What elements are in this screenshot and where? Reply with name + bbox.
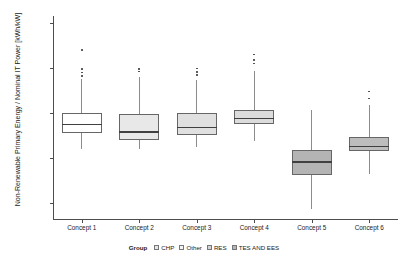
boxplot-median-line [177,127,217,128]
legend-label: TES AND EES [239,244,280,251]
legend-label: RES [214,244,227,251]
boxplot-median-line [349,146,389,147]
boxplot-median-line [234,118,274,119]
plot-panel [53,16,398,219]
boxplot-outlier-point [196,68,198,70]
y-axis-title: Non-Renewable Primary Energy / Nominal I… [10,7,26,212]
x-tick-mark [312,220,313,223]
boxplot-outlier-point [368,91,370,93]
x-tick-mark [82,220,83,223]
legend-label: Other [186,244,201,251]
boxplot-median-line [119,131,159,132]
y-tick-mark [50,158,53,159]
x-tick-label: Concept 6 [334,224,404,231]
boxplot-whisker [254,71,255,141]
legend-swatch-icon [207,245,212,250]
boxplot-iqr-box [177,113,217,135]
y-tick-mark [50,113,53,114]
x-tick-mark [254,220,255,223]
x-tick-mark [139,220,140,223]
boxplot-outlier-point [138,68,140,70]
legend-item[interactable]: Other [179,244,201,251]
boxplot-outlier-point [253,59,255,61]
legend-label: CHP [161,244,174,251]
boxplot-outlier-point [81,49,83,51]
legend-swatch-icon [154,245,159,250]
legend: Group CHPOtherRESTES AND EES [0,240,408,254]
boxplot-outlier-point [196,74,198,76]
boxplot-outlier-point [81,72,83,74]
boxplot-outlier-point [196,71,198,73]
boxplot-median-line [292,161,332,162]
boxplot-iqr-box [119,114,159,139]
legend-swatch-icon [232,245,237,250]
boxplot-outlier-point [81,68,83,70]
legend-item[interactable]: TES AND EES [232,244,280,251]
boxplot-median-line [62,124,102,125]
y-tick-mark [50,68,53,69]
x-tick-mark [369,220,370,223]
legend-item[interactable]: RES [207,244,227,251]
x-tick-mark [197,220,198,223]
boxplot-outlier-point [253,63,255,65]
x-axis-line [53,219,398,220]
boxplot-chart: Non-Renewable Primary Energy / Nominal I… [0,0,408,260]
y-axis-line [53,16,54,219]
legend-title: Group [129,244,148,251]
y-tick-mark [50,23,53,24]
y-tick-mark [50,203,53,204]
boxplot-iqr-box [349,137,389,151]
legend-swatch-icon [179,245,184,250]
boxplot-outlier-point [81,75,83,77]
boxplot-outlier-point [253,54,255,56]
legend-item[interactable]: CHP [154,244,174,251]
